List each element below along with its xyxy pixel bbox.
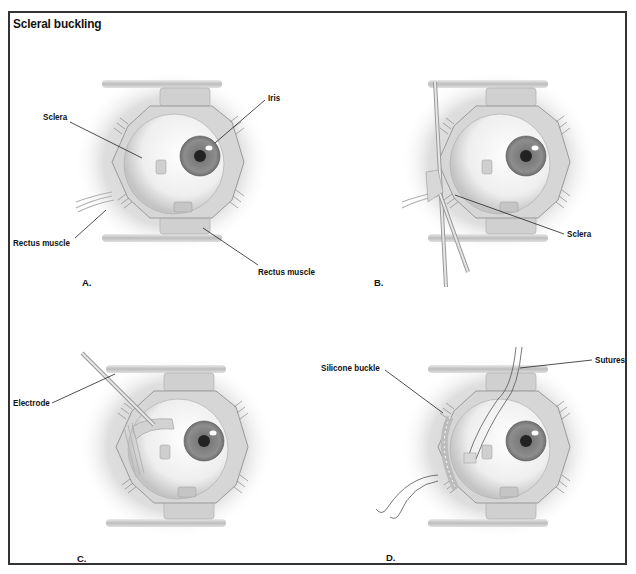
panel-letter-c: C.: [77, 553, 87, 564]
label-silicone-buckle: Silicone buckle: [321, 362, 380, 373]
label-iris: Iris: [268, 92, 280, 103]
panel-b-illustration: [400, 70, 596, 287]
panel-letter-a: A.: [82, 277, 92, 288]
illustration-canvas: [0, 0, 636, 574]
panel-letter-d: D.: [386, 552, 396, 563]
label-sclera-b: Sclera: [567, 228, 591, 239]
figure-title: Scleral buckling: [13, 16, 101, 31]
label-electrode: Electrode: [13, 397, 50, 408]
label-rectus-muscle-right: Rectus muscle: [258, 266, 315, 277]
panel-a-illustration: [74, 70, 270, 254]
panel-d-illustration: [376, 347, 596, 539]
panel-c-illustration: [78, 353, 274, 539]
panel-letter-b: B.: [374, 277, 384, 288]
label-sclera-a: Sclera: [43, 111, 67, 122]
label-sutures: Sutures: [595, 354, 625, 365]
label-rectus-muscle-left: Rectus muscle: [13, 237, 70, 248]
